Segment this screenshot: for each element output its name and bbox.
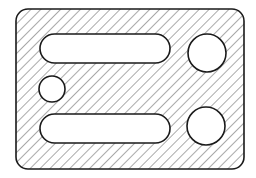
top-right-hole [188,34,226,72]
diagram-canvas [0,0,256,178]
top-slot [40,34,170,63]
bottom-right-hole [187,107,225,145]
left-small-hole [39,76,65,102]
bottom-slot [40,114,170,143]
